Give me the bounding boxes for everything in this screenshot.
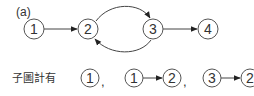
graph-node-3: 3: [143, 19, 163, 39]
separator-comma: ,: [101, 74, 105, 89]
edge-3-to-2-arc: [95, 39, 151, 52]
subgraph-2: 1 2 ,: [125, 69, 187, 89]
node-label: 1: [30, 21, 38, 37]
subgraph-3: 3 2: [203, 69, 254, 87]
subgraph-node-3: 3: [203, 69, 221, 87]
graph-node-1: 1: [24, 19, 44, 39]
graph-node-2: 2: [78, 19, 98, 39]
node-label: 3: [208, 70, 216, 86]
subgraph-node-1: 1: [81, 69, 99, 87]
separator-comma: ,: [183, 74, 187, 89]
node-label: 2: [246, 70, 254, 86]
subgraph-node-2: 2: [241, 69, 254, 87]
node-label: 1: [130, 70, 138, 86]
node-label: 4: [204, 21, 212, 37]
main-graph-edges: [44, 6, 197, 52]
graph-node-4: 4: [198, 19, 218, 39]
subgraph-node-2: 2: [163, 69, 181, 87]
subgraphs-prefix: 子圖計有: [12, 71, 56, 85]
subgraph-node-1: 1: [125, 69, 143, 87]
node-label: 1: [86, 70, 94, 86]
subgraph-1: 1 ,: [81, 69, 105, 89]
node-label: 3: [149, 21, 157, 37]
node-label: 2: [84, 21, 92, 37]
node-label: 2: [168, 70, 176, 86]
edge-2-to-3-arc: [96, 6, 150, 21]
figure-label: (a): [16, 5, 31, 19]
directed-graph-figure: (a) 1 2 3 4 子圖計有 1 , 1: [0, 0, 254, 96]
